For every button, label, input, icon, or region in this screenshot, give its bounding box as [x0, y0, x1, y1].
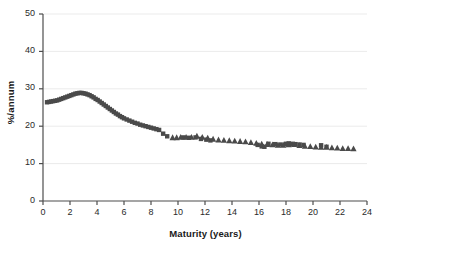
data-point-triangle: [307, 143, 313, 149]
data-point-triangle: [237, 138, 243, 144]
data-point-triangle: [329, 144, 335, 150]
y-axis-title: %/annum: [2, 62, 20, 142]
x-tick-label-14: 14: [222, 207, 242, 217]
y-tick-label-50: 50: [15, 8, 35, 18]
data-point-square: [157, 128, 161, 132]
data-point-triangle: [248, 139, 254, 145]
x-tick-label-20: 20: [303, 207, 323, 217]
x-tick-label-10: 10: [168, 207, 188, 217]
x-tick-label-8: 8: [141, 207, 161, 217]
y-tick-label-10: 10: [15, 157, 35, 167]
data-point-triangle: [340, 145, 346, 151]
data-point-triangle: [215, 137, 221, 143]
y-tick-label-0: 0: [15, 195, 35, 205]
chart-plot-svg: [0, 0, 464, 259]
x-tick-label-18: 18: [276, 207, 296, 217]
footer-caption-strip: [0, 250, 464, 259]
series-square-series: [45, 91, 329, 149]
x-tick-label-4: 4: [87, 207, 107, 217]
chart-figure: %/annum Maturity (years) 010203040500246…: [0, 0, 464, 259]
x-tick-label-0: 0: [33, 207, 53, 217]
data-point-square: [165, 134, 169, 138]
x-tick-label-16: 16: [249, 207, 269, 217]
data-point-triangle: [232, 138, 238, 144]
x-tick-label-22: 22: [330, 207, 350, 217]
x-tick-label-2: 2: [60, 207, 80, 217]
y-tick-label-20: 20: [15, 120, 35, 130]
x-axis-title: Maturity (years): [43, 228, 368, 239]
axis-lines: [43, 14, 367, 201]
x-tick-label-6: 6: [114, 207, 134, 217]
axis-ticks: [39, 14, 367, 205]
data-point-triangle: [334, 145, 340, 151]
data-point-triangle: [350, 146, 356, 152]
y-tick-label-30: 30: [15, 82, 35, 92]
data-point-triangle: [221, 137, 227, 143]
y-tick-label-40: 40: [15, 45, 35, 55]
data-point-triangle: [313, 144, 319, 150]
data-point-triangle: [242, 138, 248, 144]
x-tick-label-12: 12: [195, 207, 215, 217]
data-point-triangle: [226, 137, 232, 143]
x-tick-label-24: 24: [357, 207, 377, 217]
data-point-triangle: [345, 145, 351, 151]
data-point-square: [161, 131, 165, 135]
